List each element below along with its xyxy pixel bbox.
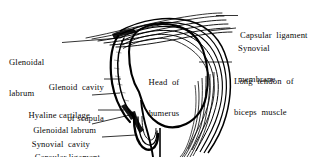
label-line: Capsular ligament [8, 152, 100, 157]
label-head-of-humerus: Head of humerus [135, 57, 193, 139]
anatomical-figure: Glenoidal labrum Glenoid cavity of scapu… [0, 0, 325, 157]
label-line: humerus [135, 108, 193, 118]
leader-capsular-ligament-left [102, 135, 136, 137]
label-capsular-ligament-left: Capsular ligament [8, 132, 100, 157]
label-line: Synovial [238, 43, 322, 53]
label-line: Long tendon of [234, 76, 324, 86]
label-line: biceps muscle [234, 107, 324, 117]
label-line: Head of [135, 77, 193, 87]
label-long-tendon-of-biceps: Long tendon of biceps muscle [234, 56, 324, 138]
